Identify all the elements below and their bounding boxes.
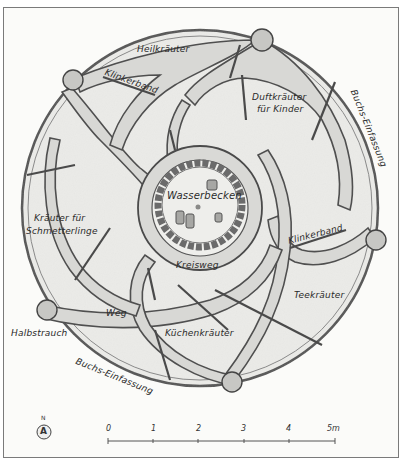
scale-tick-2: 2 [196,424,201,433]
label-schmetterlinge-line1: Kräuter für [34,213,85,223]
label-duftkraeuter-line2: für Kinder [257,104,304,114]
label-heilkraeuter: Heilkräuter [137,44,189,54]
label-wasserbecken: Wasserbecken [167,190,242,201]
north-arrow-glyph: A [40,426,47,436]
north-label: N [41,414,46,421]
label-teekraeuter: Teekräuter [294,290,344,300]
label-weg: Weg [106,308,127,318]
scale-tick-5m: 5m [327,424,340,433]
label-schmetterlinge-line2: Schmetterlinge [26,226,98,236]
scale-tick-3: 3 [241,424,246,433]
scale-tick-0: 0 [106,424,111,433]
scale-tick-1: 1 [151,424,156,433]
label-duftkraeuter-line1: Duftkräuter [252,92,306,102]
scale-tick-4: 4 [286,424,291,433]
scale-bar [108,438,335,444]
label-kuechenkraeuter: Küchenkräuter [165,328,234,338]
label-halbstrauch: Halbstrauch [11,328,68,338]
label-kreisweg: Kreisweg [176,260,219,270]
